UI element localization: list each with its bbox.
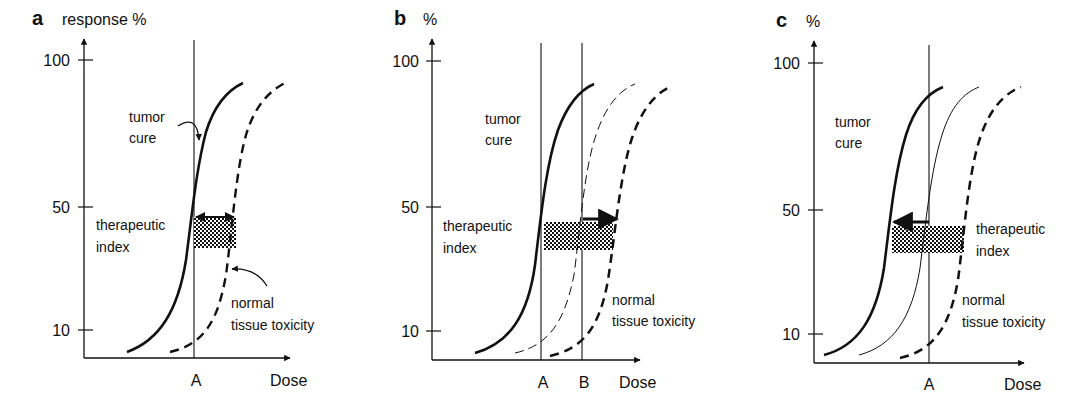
x-marker-label-a: A [924, 376, 935, 393]
normal-toxicity-label: normal [231, 295, 274, 311]
therapeutic-index-label: therapeutic [443, 218, 512, 234]
therapeutic-index-band [194, 217, 236, 248]
tick-label-100: 100 [43, 52, 70, 69]
tick-label-10: 10 [401, 323, 419, 340]
therapeutic-index-label-2: index [443, 240, 476, 256]
normal-toxicity-label-2: tissue toxicity [962, 314, 1045, 330]
tick-label-50: 50 [782, 202, 800, 219]
x-marker-label-a: A [191, 372, 202, 389]
y-axis-title: % [806, 13, 820, 30]
tick-label-50: 50 [401, 199, 419, 216]
normal-toxicity-label-2: tissue toxicity [231, 317, 314, 333]
therapeutic-index-label: therapeutic [976, 221, 1045, 237]
tumor-cure-label-2: cure [835, 135, 862, 151]
figure-canvas: a response % 100 50 10 tumor cure therap… [0, 0, 1092, 405]
panel-letter: c [776, 9, 787, 31]
panel-b: b % 100 50 10 tumor cure therapeutic ind… [392, 7, 695, 391]
tumor-cure-pointer-arrow [178, 122, 199, 140]
x-marker-label-b: B [579, 374, 590, 391]
y-axis-title: response % [62, 11, 147, 28]
tick-label-50: 50 [52, 199, 70, 216]
tumor-cure-label: tumor [835, 114, 871, 130]
therapeutic-index-label-2: index [976, 243, 1009, 259]
therapeutic-index-label-2: index [96, 239, 129, 255]
panel-letter: a [32, 7, 44, 29]
x-axis-title: Dose [619, 374, 656, 391]
y-axis-title: % [423, 11, 437, 28]
panel-c: c % 100 50 10 tumor cure therapeutic ind… [773, 9, 1045, 393]
x-axis-title: Dose [270, 372, 307, 389]
therapeutic-index-label: therapeutic [96, 217, 165, 233]
tick-label-100: 100 [773, 55, 800, 72]
x-axis-title: Dose [1004, 376, 1041, 393]
panel-letter: b [394, 7, 406, 29]
tumor-cure-label: tumor [129, 109, 165, 125]
tick-label-10: 10 [782, 326, 800, 343]
tick-label-10: 10 [52, 322, 70, 339]
normal-toxicity-label: normal [612, 292, 655, 308]
tumor-cure-label: tumor [485, 111, 521, 127]
normal-toxicity-label: normal [962, 292, 1005, 308]
tumor-cure-label-2: cure [129, 130, 156, 146]
normal-toxicity-label-2: tissue toxicity [612, 313, 695, 329]
panel-a: a response % 100 50 10 tumor cure therap… [32, 7, 314, 389]
x-marker-label-a: A [538, 374, 549, 391]
normal-toxicity-pointer-arrow [232, 269, 267, 286]
tick-label-100: 100 [392, 53, 419, 70]
tumor-cure-label-2: cure [485, 132, 512, 148]
therapeutic-index-band [892, 226, 964, 253]
